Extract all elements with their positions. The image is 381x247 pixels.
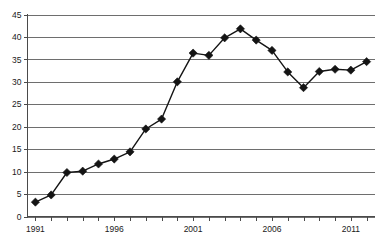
y-tick-label: 20	[12, 122, 22, 132]
x-tick-label: 2011	[342, 224, 361, 234]
x-tick-label: 1996	[105, 224, 124, 234]
y-tick-label: 45	[12, 10, 22, 20]
chart-canvas: 051015202530354045 19911996200120062011	[0, 0, 381, 247]
y-tick-label: 0	[17, 212, 22, 222]
y-tick-label: 10	[12, 167, 22, 177]
y-tick-label: 35	[12, 55, 22, 65]
y-tick-label: 5	[17, 189, 22, 199]
x-tick-label: 2006	[263, 224, 282, 234]
x-tick-label: 1991	[26, 224, 45, 234]
y-tick-label: 15	[12, 144, 22, 154]
y-tick-label: 25	[12, 99, 22, 109]
x-tick-label: 2001	[184, 224, 203, 234]
line-chart: 051015202530354045 19911996200120062011	[0, 0, 381, 247]
y-tick-label: 30	[12, 77, 22, 87]
y-tick-label: 40	[12, 32, 22, 42]
